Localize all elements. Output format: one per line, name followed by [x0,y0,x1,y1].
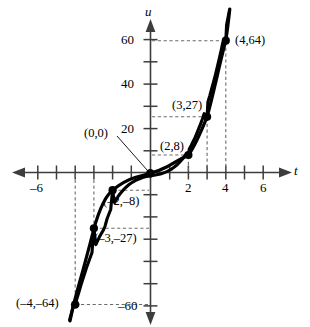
x-tick-label-pos4: 4 [222,181,229,194]
y-tick-label-neg60: –60 [118,299,138,312]
u-axis-arrow-down [146,312,156,325]
y-tick-label-pos40: 40 [121,77,134,90]
u-axis-arrow-up [146,19,156,32]
y-tick-label-pos20: 20 [121,122,134,135]
x-tick-label-pos2: 2 [185,181,192,194]
point-2-8 [184,151,192,159]
point-label-2-8: (2,8) [160,140,184,153]
point-4-64 [222,37,230,45]
point-label-m4-m64: (–4,–64) [16,297,59,310]
t-axis-label: t [294,164,298,177]
point-label-4-64: (4,64) [235,34,265,47]
origin-label-leader [117,136,148,171]
point-m4-m64 [71,300,80,309]
point-label-m3-m27: (–3,–27) [94,232,137,245]
graph-canvas [0,0,310,327]
x-tick-label-neg6: –6 [30,181,43,194]
point-label-3-27: (3,27) [172,99,202,112]
cubic-curve [70,10,230,320]
point-3-27 [203,113,211,121]
x-tick-label-pos6: 6 [260,181,267,194]
u-axis-label: u [145,5,152,18]
point-label-0-0: (0,0) [84,127,108,140]
y-tick-label-pos60: 60 [121,33,134,46]
t-axis-arrow-right [279,168,292,178]
t-axis-arrow-left [12,168,25,178]
cubic-function-graph: u t –6 2 4 6 60 40 20 –60 (4,64) (3,27) … [0,0,310,327]
point-label-m2-m8: (–2,–8) [103,195,139,208]
